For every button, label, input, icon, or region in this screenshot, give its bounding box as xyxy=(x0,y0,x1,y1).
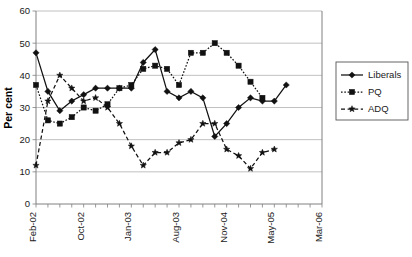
line-chart: Per cent 0102030405060 Feb-02Oct-02Jan-0… xyxy=(0,0,412,257)
star-glyph xyxy=(271,146,277,152)
x-axis-ticks xyxy=(36,204,322,208)
y-tick-label: 50 xyxy=(19,38,30,49)
y-axis-title: Per cent xyxy=(2,87,14,129)
data-point xyxy=(128,143,134,149)
data-point xyxy=(212,120,218,126)
star-glyph xyxy=(92,95,98,101)
star-glyph xyxy=(128,143,134,149)
data-point xyxy=(236,63,241,68)
series-line xyxy=(36,50,286,137)
data-point xyxy=(200,120,206,126)
data-point xyxy=(188,88,194,94)
data-point xyxy=(45,98,51,104)
data-point xyxy=(81,105,86,110)
data-point xyxy=(57,121,62,126)
legend-label: ADQ xyxy=(368,103,389,114)
legend-label: PQ xyxy=(368,86,382,97)
data-point xyxy=(33,50,39,56)
star-glyph xyxy=(57,72,63,78)
y-axis-ticks: 0102030405060 xyxy=(19,5,36,209)
data-point xyxy=(81,92,87,98)
y-axis-title-text: Per cent xyxy=(2,87,14,129)
data-point xyxy=(33,82,38,87)
data-point xyxy=(212,41,217,46)
data-point xyxy=(224,50,229,55)
legend-label: Liberals xyxy=(368,69,402,80)
data-point xyxy=(69,115,74,120)
star-glyph xyxy=(259,149,265,155)
series-layer xyxy=(33,41,289,172)
data-point xyxy=(93,108,98,113)
data-point xyxy=(271,146,277,152)
star-glyph xyxy=(164,149,170,155)
data-point xyxy=(200,50,205,55)
chart-root: Per cent 0102030405060 Feb-02Oct-02Jan-0… xyxy=(0,0,412,257)
x-axis-labels: Feb-02Oct-02Jan-03Aug-03Nov-04May-05Mar-… xyxy=(27,212,324,244)
y-tick-label: 0 xyxy=(25,198,30,209)
x-tick-label: Nov-04 xyxy=(218,212,229,243)
gridlines xyxy=(36,11,322,172)
data-point xyxy=(117,86,122,91)
series-liberals xyxy=(33,47,289,140)
x-tick-label: Feb-02 xyxy=(27,212,38,242)
legend: LiberalsPQADQ xyxy=(336,62,408,120)
y-tick-label: 10 xyxy=(19,166,30,177)
legend-marker xyxy=(349,89,354,94)
data-point xyxy=(45,88,51,94)
x-tick-label: Mar-06 xyxy=(313,212,324,242)
data-point xyxy=(164,149,170,155)
data-point xyxy=(248,79,253,84)
data-point xyxy=(176,95,182,101)
data-point xyxy=(259,149,265,155)
star-glyph xyxy=(45,98,51,104)
x-tick-label: May-05 xyxy=(265,212,276,244)
y-tick-label: 60 xyxy=(19,5,30,16)
x-tick-label: Jan-03 xyxy=(122,212,133,241)
data-point xyxy=(164,66,169,71)
x-tick-label: Oct-02 xyxy=(75,212,86,241)
data-point xyxy=(141,66,146,71)
star-glyph xyxy=(212,120,218,126)
data-point xyxy=(200,95,206,101)
data-point xyxy=(260,95,265,100)
data-point xyxy=(176,82,181,87)
data-point xyxy=(129,82,134,87)
data-point xyxy=(164,88,170,94)
data-point xyxy=(92,85,98,91)
data-point xyxy=(45,118,50,123)
y-tick-label: 40 xyxy=(19,70,30,81)
data-point xyxy=(188,50,193,55)
star-glyph xyxy=(200,120,206,126)
data-point xyxy=(153,63,158,68)
y-tick-label: 20 xyxy=(19,134,30,145)
data-point xyxy=(104,85,110,91)
data-point xyxy=(57,72,63,78)
data-point xyxy=(92,95,98,101)
series-adq xyxy=(33,72,278,171)
x-tick-label: Aug-03 xyxy=(170,212,181,243)
series-pq xyxy=(33,41,265,127)
y-tick-label: 30 xyxy=(19,102,30,113)
